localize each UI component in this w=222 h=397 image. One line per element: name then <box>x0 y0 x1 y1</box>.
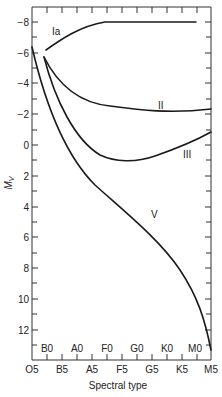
x-bottom-label: O5 <box>25 364 39 375</box>
y-tick-label: −6 <box>18 48 30 59</box>
curve-v <box>32 47 211 350</box>
x-bottom-label: B5 <box>56 364 69 375</box>
curve-label-v: V <box>151 209 158 220</box>
curve-label-iii: III <box>183 149 191 160</box>
x-bottom-label: F5 <box>116 364 128 375</box>
bottom-ticks <box>47 354 197 360</box>
x-axis-title: Spectral type <box>89 380 148 391</box>
x-bottom-label: A5 <box>86 364 99 375</box>
x-bottom-label: M5 <box>204 364 218 375</box>
hr-diagram: −8 −6 −4 −2 0 2 4 6 8 10 12 MV B0 A0 F0 … <box>0 0 222 397</box>
x-bottom-label: G5 <box>145 364 159 375</box>
y-tick-label: 4 <box>23 202 29 213</box>
curves <box>32 22 211 350</box>
y-tick-label: 12 <box>18 325 30 336</box>
y-tick-label: 6 <box>23 232 29 243</box>
y-tick-label: 10 <box>18 294 30 305</box>
left-ticks <box>32 22 38 345</box>
x-inner-label: G0 <box>130 343 144 354</box>
curve-ia <box>46 22 196 50</box>
y-axis-title: MV <box>3 175 15 189</box>
x-inner-labels: B0 A0 F0 G0 K0 M0 <box>41 343 202 354</box>
y-tick-label: −4 <box>18 78 30 89</box>
x-inner-label: F0 <box>101 343 113 354</box>
y-axis-title-sub: V <box>8 175 15 181</box>
y-tick-labels: −8 −6 −4 −2 0 2 4 6 8 10 12 <box>18 17 30 336</box>
y-tick-label: 2 <box>23 171 29 182</box>
right-ticks <box>205 22 211 345</box>
x-inner-label: A0 <box>71 343 84 354</box>
top-ticks <box>47 7 197 13</box>
plot-frame <box>32 7 211 360</box>
y-tick-label: 8 <box>23 263 29 274</box>
y-tick-label: −2 <box>18 109 30 120</box>
x-inner-label: K0 <box>161 343 174 354</box>
x-inner-label: M0 <box>188 343 202 354</box>
y-tick-label: −8 <box>18 17 30 28</box>
svg-text:MV: MV <box>3 175 15 189</box>
x-bottom-labels: O5 B5 A5 F5 G5 K5 M5 <box>25 364 218 375</box>
y-tick-label: 0 <box>23 140 29 151</box>
curve-label-ia: Ia <box>52 26 61 37</box>
x-bottom-label: K5 <box>176 364 189 375</box>
curve-ii <box>44 57 211 111</box>
x-inner-label: B0 <box>41 343 54 354</box>
curve-label-ii: II <box>158 100 164 111</box>
